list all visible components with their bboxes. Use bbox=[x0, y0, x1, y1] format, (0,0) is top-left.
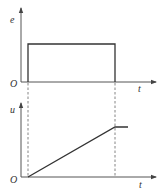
top-graph: e t O bbox=[10, 8, 156, 94]
rectangular-pulse bbox=[28, 44, 115, 82]
top-origin-label: O bbox=[10, 78, 17, 89]
diagram: e t O u t O bbox=[0, 0, 165, 196]
ramp-signal bbox=[28, 127, 128, 177]
bottom-y-label: u bbox=[10, 104, 15, 115]
bottom-graph: u t O bbox=[10, 103, 156, 190]
bottom-x-label: t bbox=[139, 179, 142, 190]
top-y-label: e bbox=[10, 14, 15, 25]
top-x-label: t bbox=[138, 83, 141, 94]
bottom-origin-label: O bbox=[10, 174, 17, 185]
